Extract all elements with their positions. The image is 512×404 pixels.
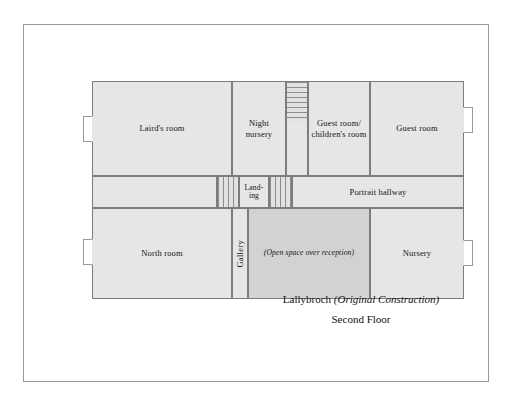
room-guest-room: Guest room [370,81,464,176]
window-guest-room-east-icon [463,107,473,133]
stair-run-upper-icon [286,81,308,176]
caption-place-name: Lallybroch [283,293,331,305]
room-label: Guest room/ children's room [309,118,368,138]
caption-line-floor: Second Floor [251,309,471,329]
room-landing: Land- ing [239,176,269,208]
room-lairds-room: Laird's room [92,81,232,176]
stair-landing-east-icon [269,176,292,208]
room-portrait-hallway: Portrait hallway [292,176,464,208]
figure-caption: Lallybroch (Original Construction) Secon… [251,289,471,330]
room-label: Land- ing [243,184,266,200]
room-night-nursery: Night nursery [232,81,286,176]
room-label: Gallery [233,240,247,268]
room-label: North room [139,248,184,258]
window-lairds-room-west-icon [83,116,93,142]
room-gallery: Gallery [232,208,248,299]
caption-qualifier: (Original Construction) [334,293,439,305]
floor-plan-diagram: Laird's room Night nursery Guest room/ c… [92,81,464,299]
room-label: Portrait hallway [348,187,409,197]
caption-line-title: Lallybroch (Original Construction) [251,289,471,309]
window-nursery-east-icon [463,240,473,266]
room-north-room: North room [92,208,232,299]
room-label: Guest room [394,123,439,133]
window-north-room-west-icon [83,239,93,265]
room-label: (Open space over reception) [262,249,356,258]
stair-landing-west-icon [217,176,239,208]
room-label: Laird's room [137,123,186,133]
hall-west-blank-segment [92,176,217,208]
room-open-space-over-reception: (Open space over reception) [248,208,370,299]
room-guest-children: Guest room/ children's room [308,81,370,176]
room-label: Nursery [401,248,433,258]
page-border-frame: Laird's room Night nursery Guest room/ c… [23,24,489,382]
room-nursery: Nursery [370,208,464,299]
room-label: Night nursery [244,118,275,138]
